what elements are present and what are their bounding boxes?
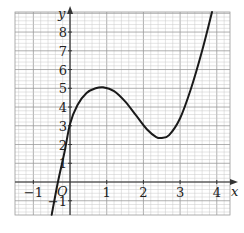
y-tick-label: 4 [59,100,67,115]
y-axis-arrow-icon [67,6,73,14]
x-tick-label: 4 [213,185,221,200]
x-tick-label: 3 [176,185,184,200]
y-tick-label: 8 [59,25,67,40]
function-curve [52,12,212,215]
x-tick-label: 2 [139,185,147,200]
y-tick-label: 3 [59,119,67,134]
y-tick-label: 6 [59,63,67,78]
grid-lines [15,12,230,215]
x-tick-label: −1 [24,185,43,200]
origin-label: O [57,184,68,199]
y-tick-label: 5 [59,81,67,96]
x-axis-label: x [231,184,239,199]
y-tick-label: 7 [59,44,67,59]
axes [15,6,238,215]
y-axis-label: y [57,6,66,21]
tick-labels: −11234−112345678 [24,25,221,209]
x-tick-label: 1 [103,185,111,200]
function-graph: −11234−112345678 x y O [0,0,244,233]
